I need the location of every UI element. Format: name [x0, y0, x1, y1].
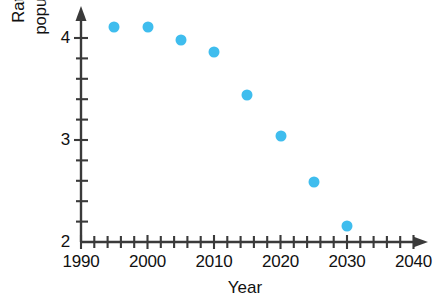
data-point	[209, 47, 220, 58]
x-tick-label-1990: 1990	[62, 252, 99, 272]
y-axis-title-line-1: Ratio of working-age	[8, 0, 30, 23]
x-tick-label-2000: 2000	[129, 252, 166, 272]
y-axis-title-line-2: population to the elderly	[30, 0, 52, 35]
scatter-chart-figure: 2 3 4 1990 2000 2010 2020 2030 2040 Year…	[0, 0, 437, 303]
y-tick-label-3: 3	[50, 130, 70, 150]
x-tick-label-2030: 2030	[328, 252, 365, 272]
data-point	[275, 130, 286, 141]
data-point	[242, 90, 253, 101]
data-point	[109, 21, 120, 32]
x-axis-title: Year	[228, 278, 262, 298]
data-point	[342, 220, 353, 231]
x-tick-label-2020: 2020	[262, 252, 299, 272]
x-axis-arrowhead	[413, 237, 428, 248]
x-tick-label-2010: 2010	[195, 252, 232, 272]
data-point	[175, 35, 186, 46]
y-axis-title: Ratio of working-age population to the e…	[4, 0, 56, 62]
y-tick-label-2: 2	[50, 232, 70, 252]
data-point	[308, 176, 319, 187]
data-point	[142, 21, 153, 32]
x-tick-label-2040: 2040	[395, 252, 432, 272]
y-axis-arrowhead	[76, 6, 87, 21]
